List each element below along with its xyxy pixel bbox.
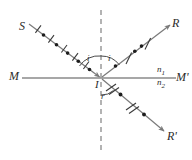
refractive-index-ratio: n1 n2 xyxy=(157,64,165,90)
refractive-index-lower: n2 xyxy=(157,77,165,90)
label-refracted-ray: R' xyxy=(167,130,177,142)
label-angle-refraction: r xyxy=(101,92,105,101)
label-incident-ray: S xyxy=(19,20,25,32)
label-angle-reflection: i xyxy=(108,54,111,63)
optics-diagram: S R R' M M' I i i r n1 n2 xyxy=(0,0,192,160)
label-interface-right: M' xyxy=(176,71,189,83)
label-interface-left: M xyxy=(9,70,19,82)
refractive-index-upper: n1 xyxy=(157,64,165,77)
label-incidence-point: I xyxy=(95,79,99,90)
label-reflected-ray: R xyxy=(172,17,179,29)
label-angle-incidence: i xyxy=(87,54,90,63)
